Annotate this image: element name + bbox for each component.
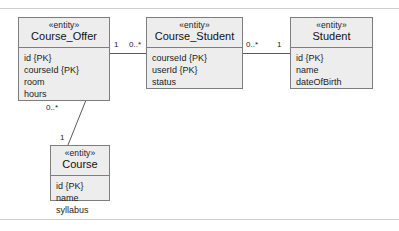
multiplicity-coursestudent-left: 0..* xyxy=(129,41,141,49)
multiplicity-offer-side: 1 xyxy=(114,41,118,49)
multiplicity-course-top: 1 xyxy=(60,134,64,142)
association-line-coursestudent-student xyxy=(243,53,290,54)
attribute: hours xyxy=(24,88,109,100)
association-line-offer-coursestudent xyxy=(110,53,146,54)
entity-course-attributes: id {PK} name syllabus xyxy=(51,176,109,221)
entity-course-offer-header: «entity» Course_Offer xyxy=(19,18,109,48)
attribute: room xyxy=(24,76,109,88)
top-divider xyxy=(0,8,399,9)
attribute: status xyxy=(152,76,242,88)
attribute: syllabus xyxy=(56,204,109,216)
attribute: courseId {PK} xyxy=(24,64,109,76)
entity-course-offer-attributes: id {PK} courseId {PK} room hours xyxy=(19,48,109,105)
entity-course-student[interactable]: «entity» Course_Student courseId {PK} us… xyxy=(146,17,243,89)
entity-course-offer-name: Course_Offer xyxy=(23,31,105,43)
multiplicity-coursestudent-right: 0..* xyxy=(246,41,258,49)
entity-student-name: Student xyxy=(295,31,368,43)
attribute: id {PK} xyxy=(24,52,109,64)
multiplicity-student-side: 1 xyxy=(277,41,281,49)
diagram-canvas: 1 0..* 0..* 1 0..* 1 «entity» Course_Off… xyxy=(0,0,399,231)
attribute: dateOfBirth xyxy=(296,76,372,88)
entity-student-stereotype: «entity» xyxy=(295,21,368,30)
entity-course-student-attributes: courseId {PK} userId {PK} status xyxy=(147,48,242,93)
attribute: name xyxy=(56,192,109,204)
entity-student-attributes: id {PK} name dateOfBirth xyxy=(291,48,372,93)
entity-course-name: Course xyxy=(55,159,105,171)
entity-course-offer[interactable]: «entity» Course_Offer id {PK} courseId {… xyxy=(18,17,110,101)
attribute: id {PK} xyxy=(56,180,109,192)
entity-course-offer-stereotype: «entity» xyxy=(23,21,105,30)
entity-course[interactable]: «entity» Course id {PK} name syllabus xyxy=(50,145,110,201)
entity-course-student-name: Course_Student xyxy=(151,31,238,43)
attribute: name xyxy=(296,64,372,76)
attribute: userId {PK} xyxy=(152,64,242,76)
entity-course-student-header: «entity» Course_Student xyxy=(147,18,242,48)
attribute: id {PK} xyxy=(296,52,372,64)
association-line-offer-course xyxy=(50,100,110,148)
attribute: courseId {PK} xyxy=(152,52,242,64)
entity-course-stereotype: «entity» xyxy=(55,149,105,158)
entity-student[interactable]: «entity» Student id {PK} name dateOfBirt… xyxy=(290,17,373,89)
entity-course-header: «entity» Course xyxy=(51,146,109,176)
entity-course-student-stereotype: «entity» xyxy=(151,21,238,30)
entity-student-header: «entity» Student xyxy=(291,18,372,48)
